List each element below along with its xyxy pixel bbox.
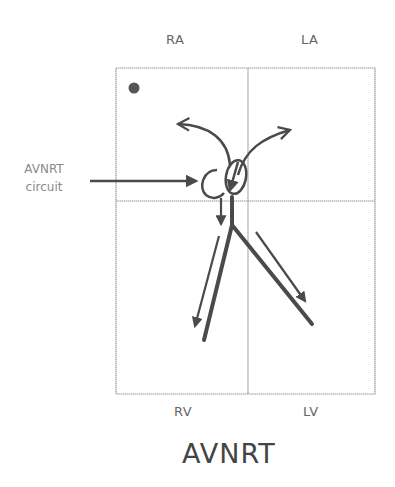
- sinus-node-dot: [129, 83, 140, 94]
- retrograde-atrial-arrows: [178, 124, 290, 175]
- heart-diagram: [0, 0, 395, 487]
- chamber-grid: [116, 68, 375, 394]
